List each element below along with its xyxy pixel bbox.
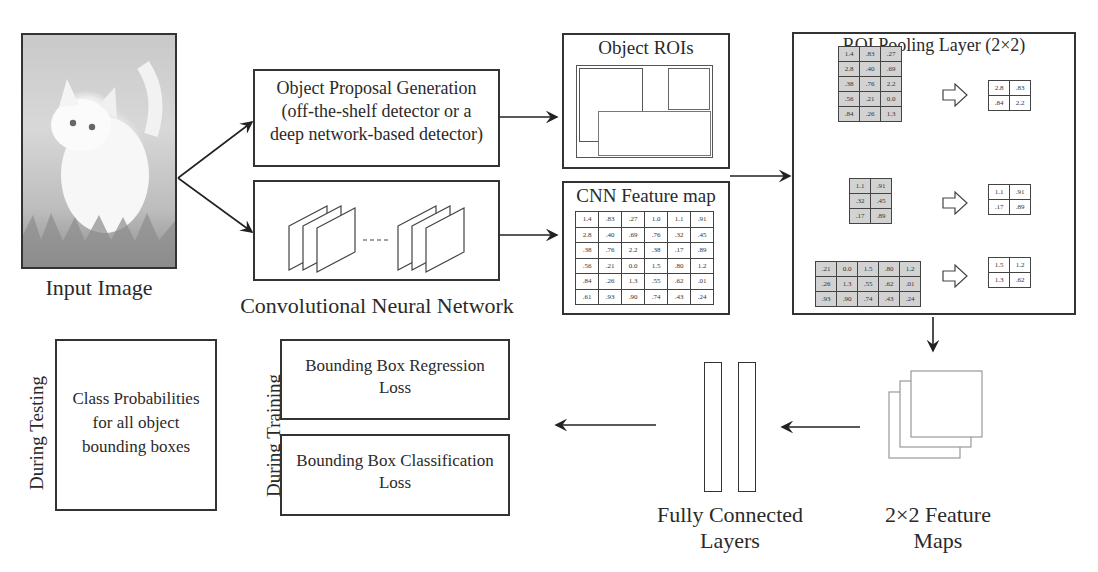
feature-maps-line-1: 2×2 Feature [858,502,1018,528]
fc-line-1: Fully Connected [630,502,830,528]
object-proposal-box: Object Proposal Generation (off-the-shel… [253,69,500,167]
fc-line-2: Layers [630,528,830,554]
roi-output-grid-1: 2.8.83 .842.2 [988,80,1031,111]
fc-label: Fully Connected Layers [630,502,830,555]
pool-arrow-icon-2 [942,191,968,215]
classification-line-2: Loss [282,472,508,494]
roi-pooling-box: ROI Pooling Layer (2×2) 1.4.83.27 2.8.40… [792,32,1076,315]
roi-output-grid-3: 1.51.2 1.3.62 [988,257,1031,288]
fc-layer-2 [738,362,756,492]
pool-arrow-icon-3 [942,264,968,288]
feature-map-box: CNN Feature map 1.4.83.271.01.1.91 2.8.4… [562,181,730,315]
feature-maps-label: 2×2 Feature Maps [858,502,1018,555]
during-testing-label: During Testing [26,376,48,490]
proposal-line-2: (off-the-shelf detector or a [255,100,498,123]
feature-map-grid: 1.4.83.271.01.1.91 2.8.40.69.76.32.45 .3… [575,211,714,305]
pool-arrow-icon-1 [942,83,968,107]
input-image-label: Input Image [16,275,182,300]
probabilities-line-3: bounding boxes [57,435,215,459]
kitten-illustration [23,35,175,267]
regression-line-2: Loss [282,377,508,399]
regression-line-1: Bounding Box Regression [282,355,508,377]
roi-input-grid-3: .210.01.5.801.2 .261.3.55.62.01 .93.90.7… [815,261,921,307]
roi-region-3 [598,111,711,156]
cnn-layers-icon [255,182,498,279]
cnn-label: Convolutional Neural Network [222,293,532,318]
probabilities-line-2: for all object [57,411,215,435]
roi-frame [576,65,713,158]
feature-map-title: CNN Feature map [564,185,728,207]
roi-input-grid-1: 1.4.83.27 2.8.40.69 .38.762.2 .56.210.0 … [838,46,902,122]
probabilities-line-1: Class Probabilities [57,387,215,411]
object-rois-title: Object ROIs [564,37,728,59]
roi-output-grid-2: 1.1.91 .17.89 [988,184,1031,215]
class-probabilities-box: Class Probabilities for all object bound… [55,339,217,511]
roi-region-2 [668,68,710,110]
cnn-box [253,180,500,281]
object-rois-box: Object ROIs [562,33,730,169]
roi-input-grid-2: 1.1.91 .32.45 .17.89 [849,178,892,224]
feature-maps-line-2: Maps [858,528,1018,554]
feature-maps-stack-icon [880,370,990,480]
roi-pooling-title: ROI Pooling Layer (2×2) [794,35,1074,56]
fc-layer-1 [704,362,722,492]
input-image [21,33,177,269]
bbox-regression-box: Bounding Box Regression Loss [280,339,510,420]
proposal-line-3: deep network-based detector) [255,123,498,146]
proposal-line-1: Object Proposal Generation [255,77,498,100]
bbox-classification-box: Bounding Box Classification Loss [280,434,510,516]
classification-line-1: Bounding Box Classification [282,450,508,472]
